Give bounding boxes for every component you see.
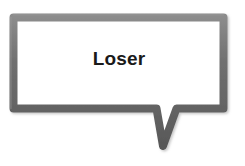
bubble-outline-group	[14, 18, 224, 147]
speech-bubble-graphic	[0, 0, 245, 166]
bubble-message-text: Loser	[0, 45, 245, 73]
bubble-outline-path	[14, 18, 224, 147]
speech-bubble-canvas: Loser	[0, 0, 245, 166]
